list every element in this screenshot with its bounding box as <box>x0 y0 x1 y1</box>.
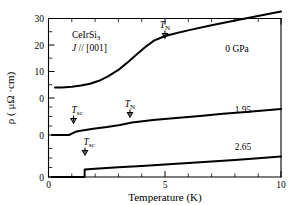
tn-label-195gpa: TN <box>125 99 135 111</box>
tn-label-0gpa: TN <box>160 20 170 32</box>
annotation-tn-195gpa: TN <box>125 99 135 117</box>
x-axis-title: Temperature (K) <box>128 191 202 204</box>
chart-svg: 30 20 10 0 0 0 0 5 10 Temperature (K) ρ … <box>0 0 302 205</box>
y-tick-label-30: 30 <box>35 14 45 24</box>
y-axis-title: ρ ( μΩ ·cm) <box>4 72 17 125</box>
annotation-tsc-265gpa: Tsc <box>82 137 94 155</box>
sample-annotation-group: CeIrSi3 J // [001] <box>72 30 107 53</box>
y-axis-ticks-top-panel <box>49 19 55 99</box>
y-axis-ticks-bottom-panel <box>49 149 55 178</box>
orientation-label: J // [001] <box>72 43 107 53</box>
x-tick-label-0: 0 <box>46 180 51 190</box>
x-tick-label-5: 5 <box>163 180 168 190</box>
resistivity-chart-figure: 30 20 10 0 0 0 0 5 10 Temperature (K) ρ … <box>0 0 302 205</box>
y-tick-labels: 30 20 10 0 0 0 <box>35 14 45 183</box>
y-tick-label-10: 10 <box>35 67 45 77</box>
pressure-label-195gpa: 1.95 <box>235 105 252 115</box>
x-tick-labels: 0 5 10 <box>46 180 286 190</box>
pressure-label-0gpa: 0 GPa <box>225 44 249 54</box>
curve-265gpa <box>52 157 281 177</box>
y-tick-label-0-top: 0 <box>39 94 44 104</box>
y-tick-label-0-bottom: 0 <box>39 173 44 183</box>
annotation-tsc-195gpa: Tsc <box>71 105 83 123</box>
y-tick-label-20: 20 <box>35 41 45 51</box>
x-tick-label-10: 10 <box>276 180 286 190</box>
pressure-labels: 0 GPa 1.95 2.65 <box>225 44 251 152</box>
pressure-label-265gpa: 2.65 <box>235 142 252 152</box>
y-tick-label-0-middle: 0 <box>39 131 44 141</box>
tsc-label-265gpa: Tsc <box>83 137 94 149</box>
y-axis-ticks-middle-panel <box>49 107 55 135</box>
plot-frame <box>48 18 282 178</box>
tsc-label-195gpa: Tsc <box>71 105 82 117</box>
sample-label: CeIrSi3 <box>72 30 101 42</box>
